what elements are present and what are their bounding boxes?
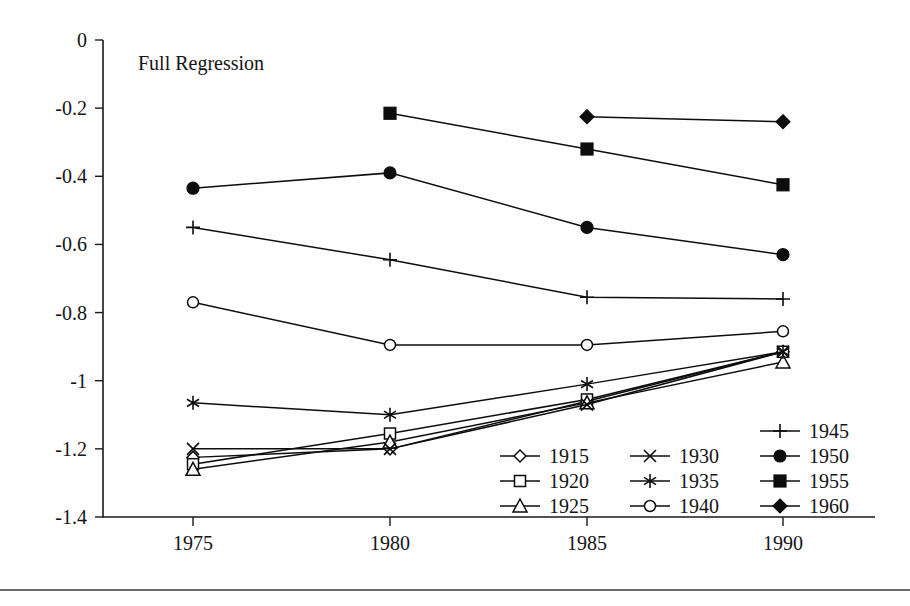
marker-plus: [383, 253, 397, 267]
legend-label-1915: 1915: [549, 445, 589, 467]
legend-label-1950: 1950: [809, 445, 849, 467]
series-line-1940: [193, 302, 783, 345]
marker-plus: [186, 220, 200, 234]
legend-label-1930: 1930: [679, 445, 719, 467]
y-axis-tick-label: -1.2: [55, 438, 87, 460]
marker-open-circle: [645, 501, 656, 512]
marker-plus: [773, 424, 787, 438]
legend-label-1945: 1945: [809, 420, 849, 442]
legend-label-1925: 1925: [549, 495, 589, 517]
chart-page: 0-0.2-0.4-0.6-0.8-1-1.2-1.41975198019851…: [0, 0, 910, 606]
marker-filled-circle: [384, 167, 396, 179]
series-1935: [187, 345, 789, 422]
marker-filled-square: [774, 475, 786, 487]
legend-label-1940: 1940: [679, 495, 719, 517]
legend-entry-1930[interactable]: 1930: [630, 445, 719, 467]
y-axis-tick-label: -0.2: [55, 97, 87, 119]
marker-open-circle: [778, 326, 789, 337]
series-1940: [188, 297, 789, 351]
marker-plus: [580, 290, 594, 304]
marker-plus: [776, 292, 790, 306]
legend-label-1920: 1920: [549, 470, 589, 492]
marker-open-circle: [582, 339, 593, 350]
marker-filled-circle: [187, 182, 199, 194]
marker-filled-square: [581, 143, 593, 155]
marker-open-diamond: [514, 450, 526, 462]
legend-entry-1940[interactable]: 1940: [630, 495, 719, 517]
x-axis-tick-label: 1980: [370, 532, 410, 554]
series-line-1945: [193, 227, 783, 299]
legend-label-1960: 1960: [809, 495, 849, 517]
legend-entry-1920[interactable]: 1920: [500, 470, 589, 492]
series-1930: [187, 346, 789, 455]
marker-filled-diamond: [580, 110, 594, 124]
marker-open-square: [515, 476, 526, 487]
legend-entry-1950[interactable]: 1950: [760, 445, 849, 467]
y-axis-tick-label: -1: [70, 370, 87, 392]
series-1945: [186, 220, 790, 306]
legend-entry-1915[interactable]: 1915: [500, 445, 589, 467]
y-axis-tick-label: -0.8: [55, 302, 87, 324]
marker-filled-diamond: [773, 499, 787, 513]
series-1960: [580, 110, 790, 129]
plot-title: Full Regression: [138, 52, 264, 75]
x-axis-tick-label: 1985: [567, 532, 607, 554]
legend-entry-1935[interactable]: 1935: [630, 470, 719, 492]
y-axis-tick-label: -1.4: [55, 506, 87, 528]
legend-label-1935: 1935: [679, 470, 719, 492]
legend-entry-1955[interactable]: 1955: [760, 470, 849, 492]
y-axis-tick-label: 0: [77, 29, 87, 51]
marker-filled-circle: [774, 450, 786, 462]
marker-filled-square: [384, 107, 396, 119]
marker-filled-circle: [581, 221, 593, 233]
line-chart: 0-0.2-0.4-0.6-0.8-1-1.2-1.41975198019851…: [0, 0, 910, 606]
legend: 1915192019251930193519401945195019551960: [500, 420, 849, 517]
legend-entry-1960[interactable]: 1960: [760, 495, 849, 517]
marker-open-circle: [188, 297, 199, 308]
series-line-1960: [587, 117, 783, 122]
series-1950: [187, 167, 789, 261]
x-axis-tick-label: 1975: [173, 532, 213, 554]
y-axis-tick-label: -0.4: [55, 165, 87, 187]
legend-entry-1945[interactable]: 1945: [760, 420, 849, 442]
marker-filled-square: [777, 179, 789, 191]
series-line-1935: [193, 352, 783, 415]
y-axis-tick-label: -0.6: [55, 233, 87, 255]
series-line-1915: [193, 352, 783, 458]
legend-entry-1925[interactable]: 1925: [500, 495, 589, 517]
x-axis-tick-label: 1990: [763, 532, 803, 554]
marker-filled-diamond: [776, 115, 790, 129]
legend-label-1955: 1955: [809, 470, 849, 492]
marker-filled-circle: [777, 249, 789, 261]
marker-open-circle: [385, 339, 396, 350]
